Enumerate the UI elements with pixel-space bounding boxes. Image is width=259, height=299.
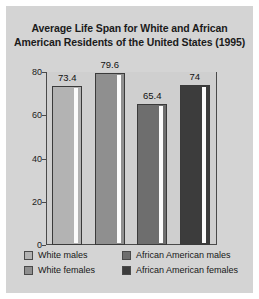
bar-value-label: 73.4 bbox=[58, 72, 77, 83]
legend-label: African American males bbox=[136, 250, 231, 260]
bar-highlight bbox=[202, 87, 206, 243]
legend-label: White females bbox=[38, 265, 95, 275]
y-axis-tick-mark bbox=[42, 245, 46, 246]
bar-highlight bbox=[159, 106, 163, 243]
y-axis-tick-label: 0 bbox=[18, 240, 42, 250]
y-axis-tick-mark bbox=[42, 115, 46, 116]
legend-item: White females bbox=[24, 265, 95, 275]
chart-title: Average Life Span for White and African … bbox=[6, 22, 253, 49]
bar-highlight bbox=[117, 75, 121, 243]
y-axis-tick-label: 40 bbox=[18, 154, 42, 164]
bar bbox=[95, 73, 125, 245]
y-axis-tick-label: 60 bbox=[18, 110, 42, 120]
bar-value-label: 65.4 bbox=[143, 90, 162, 101]
legend-label: African American females bbox=[136, 265, 238, 275]
bar-highlight bbox=[74, 88, 78, 243]
y-axis-tick-label: 20 bbox=[18, 197, 42, 207]
bar-value-label: 74 bbox=[189, 71, 200, 82]
legend-item: White males bbox=[24, 250, 88, 260]
y-axis-tick-mark bbox=[42, 72, 46, 73]
legend-item: African American females bbox=[122, 265, 238, 275]
y-axis-tick-mark bbox=[42, 202, 46, 203]
chart-legend: White malesWhite femalesAfrican American… bbox=[24, 250, 240, 282]
y-axis-tick-mark bbox=[42, 159, 46, 160]
legend-item: African American males bbox=[122, 250, 231, 260]
chart-title-line-1: Average Life Span for White and African bbox=[6, 22, 253, 36]
chart-title-line-2: American Residents of the United States … bbox=[6, 36, 253, 50]
chart-figure: Average Life Span for White and African … bbox=[6, 6, 253, 293]
bar bbox=[180, 85, 210, 245]
legend-swatch bbox=[24, 266, 33, 275]
legend-swatch bbox=[24, 251, 33, 260]
bar bbox=[52, 86, 82, 245]
y-axis-line bbox=[46, 72, 47, 245]
legend-swatch bbox=[122, 266, 131, 275]
y-axis-tick-label: 80 bbox=[18, 67, 42, 77]
bar-value-label: 79.6 bbox=[101, 59, 120, 70]
plot-right-border bbox=[216, 72, 217, 245]
legend-swatch bbox=[122, 251, 131, 260]
bar bbox=[137, 104, 167, 245]
legend-label: White males bbox=[38, 250, 88, 260]
